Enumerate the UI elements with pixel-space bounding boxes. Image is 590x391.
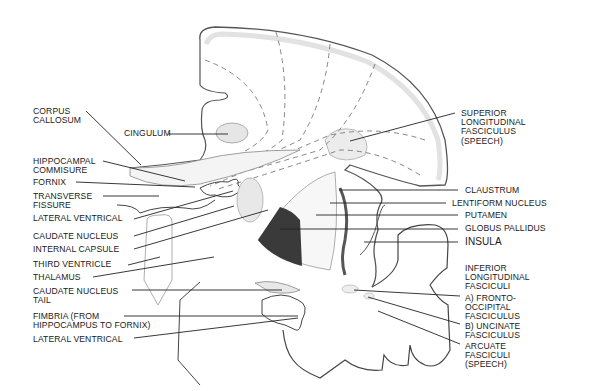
medial-surface (130, 40, 228, 168)
label-cingulum: CINGULUM (124, 129, 171, 138)
label-third-ventricle: THIRD VENTRICLE (33, 260, 111, 269)
label-inferior-longitudinal-fasciculi: INFERIOR LONGITUDINAL FASCICULI (465, 264, 530, 292)
label-superior-longitudinal-fasciculus: SUPERIOR LONGITUDINAL FASCICULUS (SPEECH… (461, 109, 526, 146)
label-lateral-ventrical-lower: LATERAL VENTRICAL (33, 335, 123, 344)
lower-medial-outline (178, 282, 200, 385)
label-fimbria: FIMBRIA (FROM HIPPOCAMPUS TO FORNIX) (33, 312, 150, 330)
label-hippocampal-commisure: HIPPOCAMPAL COMMISURE (33, 157, 96, 175)
slf-shape (325, 129, 367, 160)
label-claustrum: CLAUSTRUM (465, 186, 519, 195)
label-putamen: PUTAMEN (465, 211, 507, 220)
globus-pallidus-shape (258, 207, 302, 266)
label-internal-capsule: INTERNAL CAPSULE (33, 245, 119, 254)
cingulum-shape (216, 123, 248, 143)
label-caudate-nucleus-tail: CAUDATE NUCLEUS TAIL (33, 287, 118, 305)
label-fornix: FORNIX (33, 178, 66, 187)
label-corpus-callosum: CORPUS CALLOSUM (33, 107, 81, 125)
transverse-fissure (117, 200, 215, 213)
insula-fold (360, 205, 385, 255)
fronto-occipital-shape (342, 285, 358, 293)
caudate-tail-shape (255, 282, 300, 294)
label-uncinate-fasciculus: B) UNCINATE FASCICULUS (465, 322, 520, 340)
label-transverse-fissure: TRANSVERSE FISSURE (33, 192, 92, 210)
label-lentiform-nucleus: LENTIFORM NUCLEUS (452, 199, 547, 208)
label-fronto-occipital-fasciculus: A) FRONTO- OCCIPITAL FASCICULUS (465, 294, 520, 322)
label-arcuate-fasciculi: ARCUATE FASCICULI (SPEECH) (465, 342, 510, 370)
hippocampus-shape (262, 295, 305, 330)
label-insula: INSULA (465, 237, 502, 246)
label-caudate-nucleus: CAUDATE NUCLEUS (33, 232, 118, 241)
claustrum-shape (340, 188, 347, 275)
brain-coronal-diagram: CORPUS CALLOSUM CINGULUM HIPPOCAMPAL COM… (0, 0, 590, 391)
label-globus-pallidus: GLOBUS PALLIDUS (465, 224, 546, 233)
corpus-callosum-band (130, 150, 300, 186)
label-thalamus: THALAMUS (33, 273, 81, 282)
label-lateral-ventrical-upper: LATERAL VENTRICAL (33, 214, 123, 223)
